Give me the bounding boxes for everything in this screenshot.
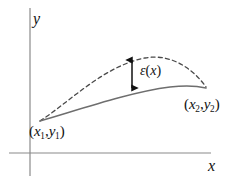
x-axis-label: x: [208, 158, 215, 174]
exact-curve-dashed: [40, 57, 206, 121]
y-axis-label: y: [33, 11, 40, 27]
point-label-start: (x1,y1): [29, 124, 65, 141]
point-label-end: (x2,y2): [184, 97, 220, 114]
epsilon-function-label: ε(x): [140, 64, 161, 78]
paren-close: ): [156, 63, 161, 78]
paren-close: ): [60, 123, 65, 139]
paren-close: ): [215, 96, 220, 112]
figure-canvas: y x (x1,y1) (x2,y2) ε(x): [0, 0, 244, 188]
